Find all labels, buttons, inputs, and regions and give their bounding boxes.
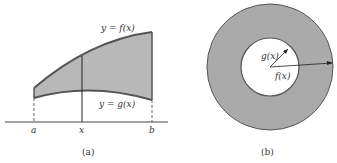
figure: y = f(x) y = g(x) a x b (a) g(x) f(x) (b… bbox=[0, 0, 337, 163]
caption-a: (a) bbox=[82, 147, 94, 157]
tick-x: x bbox=[79, 125, 84, 135]
label-f: y = f(x) bbox=[100, 23, 135, 33]
panel-a: y = f(x) y = g(x) a x b (a) bbox=[5, 23, 168, 157]
label-g: y = g(x) bbox=[98, 99, 136, 109]
label-f-radius: f(x) bbox=[274, 71, 291, 81]
label-g-radius: g(x) bbox=[261, 51, 279, 61]
tick-b: b bbox=[149, 125, 155, 135]
panel-b: g(x) f(x) (b) bbox=[207, 4, 333, 157]
caption-b: (b) bbox=[261, 147, 274, 157]
tick-a: a bbox=[31, 125, 36, 135]
